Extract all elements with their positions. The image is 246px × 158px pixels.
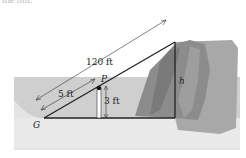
label-p: P bbox=[100, 74, 108, 84]
point-p-dot bbox=[97, 86, 101, 90]
hill-triangle-diagram: 120 ft 5 ft 3 ft P G h bbox=[0, 0, 246, 158]
label-120ft: 120 ft bbox=[86, 57, 113, 67]
label-3ft: 3 ft bbox=[104, 96, 120, 106]
label-5ft: 5 ft bbox=[58, 89, 74, 99]
pole bbox=[97, 88, 101, 118]
label-g: G bbox=[33, 120, 40, 130]
label-h: h bbox=[179, 76, 185, 86]
